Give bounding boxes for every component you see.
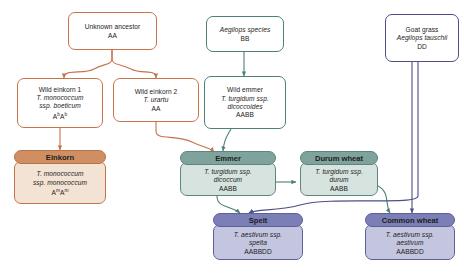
node-wild-einkorn-2-line-0: Wild einkorn 2 xyxy=(114,88,198,96)
edge-unknown-ancestor-to-wild-einkorn-2 xyxy=(112,50,156,78)
node-emmer-body: T. turgidum ssp. dicoccum AABB xyxy=(180,162,276,196)
node-wild-einkorn-1-line-2: ssp. boeticum xyxy=(18,102,102,110)
node-wild-einkorn-1-line-0: Wild einkorn 1 xyxy=(18,86,102,94)
node-common-wheat[interactable]: Common wheat T. aestivum ssp. aestivum A… xyxy=(365,213,455,260)
node-einkorn-body: T. monococcum ssp. monococcum AmAm xyxy=(14,161,106,204)
node-wild-einkorn-1-line-3: AbAb xyxy=(18,111,102,121)
node-goat-grass[interactable]: Goat grass Aegilops tauschii DD xyxy=(385,14,459,62)
wheat-lineage-diagram: Unknown ancestor AA Wild einkorn 1 T. mo… xyxy=(0,0,464,278)
node-einkorn-line-0: T. monococcum xyxy=(15,170,105,178)
node-unknown-ancestor[interactable]: Unknown ancestor AA xyxy=(68,12,157,50)
node-wild-emmer-line-1: T. turgidum ssp. xyxy=(205,95,285,103)
node-wild-emmer-line-2: dicoccoides xyxy=(205,103,285,111)
node-emmer[interactable]: Emmer T. turgidum ssp. dicoccum AABB xyxy=(180,151,276,196)
node-durum-wheat[interactable]: Durum wheat T. turgidum ssp. durum AABB xyxy=(300,151,378,196)
node-durum-wheat-body: T. turgidum ssp. durum AABB xyxy=(300,162,378,196)
node-common-wheat-body: T. aestivum ssp. aestivum AABBDD xyxy=(365,224,455,260)
node-wild-einkorn-2-line-1: T. urartu xyxy=(114,96,198,104)
node-wild-einkorn-1[interactable]: Wild einkorn 1 T. monococcum ssp. boetic… xyxy=(17,78,103,128)
node-spelt-body: T. aestivum ssp. spelta AABBDD xyxy=(213,224,303,260)
node-durum-wheat-line-1: durum xyxy=(301,176,377,184)
edge-wild-emmer-to-emmer xyxy=(223,129,231,151)
node-spelt[interactable]: Spelt T. aestivum ssp. spelta AABBDD xyxy=(213,213,303,260)
node-spelt-line-2: AABBDD xyxy=(214,248,302,256)
node-emmer-line-0: T. turgidum ssp. xyxy=(181,168,275,176)
node-common-wheat-line-0: T. aestivum ssp. xyxy=(366,231,454,239)
node-aegilops-species-line-0: Aegilops species xyxy=(207,26,283,34)
node-wild-einkorn-2[interactable]: Wild einkorn 2 T. urartu AA xyxy=(113,78,199,122)
node-spelt-line-1: spelta xyxy=(214,239,302,247)
node-spelt-line-0: T. aestivum ssp. xyxy=(214,231,302,239)
node-emmer-line-2: AABB xyxy=(181,185,275,193)
node-einkorn-header: Einkorn xyxy=(14,150,106,164)
node-einkorn-line-2: AmAm xyxy=(15,187,105,197)
node-wild-emmer[interactable]: Wild emmer T. turgidum ssp. dicoccoides … xyxy=(204,76,286,129)
node-aegilops-species-line-1: BB xyxy=(207,35,283,43)
node-wild-einkorn-1-line-1: T. monococcum xyxy=(18,94,102,102)
node-common-wheat-header: Common wheat xyxy=(365,213,455,227)
node-durum-wheat-header: Durum wheat xyxy=(300,151,378,165)
node-spelt-header: Spelt xyxy=(213,213,303,227)
node-wild-einkorn-2-line-2: AA xyxy=(114,105,198,113)
edge-durum-wheat-to-common-wheat xyxy=(378,186,390,213)
node-unknown-ancestor-line-1: AA xyxy=(69,32,156,40)
node-einkorn-line-1: ssp. monococcum xyxy=(15,179,105,187)
node-durum-wheat-line-2: AABB xyxy=(301,185,377,193)
node-goat-grass-line-2: DD xyxy=(386,43,458,51)
node-common-wheat-line-1: aestivum xyxy=(366,239,454,247)
node-wild-emmer-line-0: Wild emmer xyxy=(205,86,285,94)
node-common-wheat-line-2: AABBDD xyxy=(366,248,454,256)
edge-unknown-ancestor-to-wild-einkorn-1 xyxy=(64,50,112,78)
node-wild-emmer-line-3: AABB xyxy=(205,111,285,119)
node-unknown-ancestor-line-0: Unknown ancestor xyxy=(69,23,156,31)
node-goat-grass-line-0: Goat grass xyxy=(386,26,458,34)
node-emmer-header: Emmer xyxy=(180,151,276,165)
node-aegilops-species[interactable]: Aegilops species BB xyxy=(206,16,284,52)
node-emmer-line-1: dicoccum xyxy=(181,176,275,184)
edge-emmer-to-spelt xyxy=(217,196,240,213)
node-goat-grass-line-1: Aegilops tauschii xyxy=(386,34,458,42)
node-durum-wheat-line-0: T. turgidum ssp. xyxy=(301,168,377,176)
node-einkorn[interactable]: Einkorn T. monococcum ssp. monococcum Am… xyxy=(14,150,106,204)
